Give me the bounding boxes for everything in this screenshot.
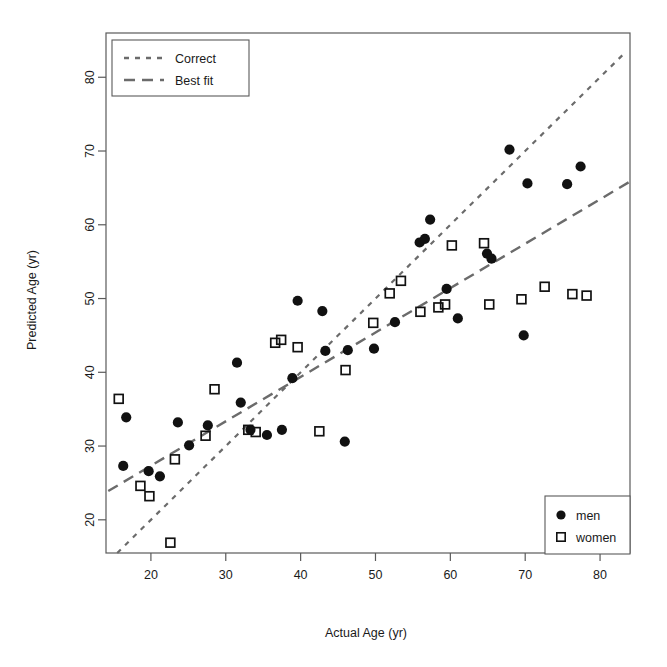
point-men bbox=[262, 430, 272, 440]
point-women bbox=[517, 295, 526, 304]
y-tick-label-50: 50 bbox=[83, 292, 97, 306]
point-men bbox=[317, 306, 327, 316]
y-tick-label-80: 80 bbox=[83, 70, 97, 84]
series-legend: menwomen bbox=[545, 496, 630, 554]
point-women bbox=[369, 318, 378, 327]
point-men bbox=[369, 344, 379, 354]
x-tick-label-70: 70 bbox=[518, 568, 532, 582]
point-men bbox=[144, 466, 154, 476]
line-legend: CorrectBest fit bbox=[112, 40, 249, 96]
series-legend-box bbox=[545, 496, 630, 554]
series-legend-marker-men bbox=[556, 510, 565, 519]
chart-canvas: 2030405060708020304050607080 CorrectBest… bbox=[0, 0, 667, 667]
point-men bbox=[236, 397, 246, 407]
point-men bbox=[562, 179, 572, 189]
point-women bbox=[277, 335, 286, 344]
point-women bbox=[540, 282, 549, 291]
point-women bbox=[145, 492, 154, 501]
x-tick-label-30: 30 bbox=[219, 568, 233, 582]
data-points bbox=[114, 144, 591, 547]
point-women bbox=[341, 366, 350, 375]
series-legend-label-women: women bbox=[575, 531, 616, 545]
x-tick-label-60: 60 bbox=[443, 568, 457, 582]
point-women bbox=[568, 290, 577, 299]
x-tick-label-20: 20 bbox=[144, 568, 158, 582]
reference-lines bbox=[108, 51, 629, 553]
y-axis-title: Predicted Age (yr) bbox=[25, 250, 39, 350]
point-men bbox=[343, 345, 353, 355]
y-tick-label-70: 70 bbox=[83, 144, 97, 158]
point-men bbox=[504, 144, 514, 154]
point-men bbox=[486, 254, 496, 264]
point-women bbox=[385, 289, 394, 298]
point-men bbox=[519, 330, 529, 340]
plot-frame bbox=[106, 33, 630, 553]
y-tick-label-20: 20 bbox=[83, 513, 97, 527]
x-tick-label-40: 40 bbox=[294, 568, 308, 582]
point-men bbox=[420, 234, 430, 244]
point-women bbox=[210, 385, 219, 394]
point-women bbox=[166, 538, 175, 547]
point-men bbox=[390, 317, 400, 327]
series-women bbox=[114, 239, 591, 547]
line-legend-label-best-fit: Best fit bbox=[175, 74, 214, 88]
y-tick-label-40: 40 bbox=[83, 365, 97, 379]
y-tick-label-60: 60 bbox=[83, 218, 97, 232]
point-men bbox=[453, 313, 463, 323]
y-tick-label-30: 30 bbox=[83, 439, 97, 453]
point-men bbox=[173, 417, 183, 427]
point-men bbox=[442, 284, 452, 294]
point-women bbox=[480, 239, 489, 248]
x-tick-label-50: 50 bbox=[369, 568, 383, 582]
point-men bbox=[320, 346, 330, 356]
point-women bbox=[271, 338, 280, 347]
point-women bbox=[582, 291, 591, 300]
point-men bbox=[121, 412, 131, 422]
point-women bbox=[315, 427, 324, 436]
reference-line-correct bbox=[117, 51, 626, 553]
point-men bbox=[232, 358, 242, 368]
point-women bbox=[416, 307, 425, 316]
series-legend-label-men: men bbox=[576, 509, 600, 523]
point-women bbox=[136, 481, 145, 490]
point-women bbox=[170, 455, 179, 464]
point-men bbox=[293, 296, 303, 306]
point-men bbox=[340, 437, 350, 447]
point-women bbox=[447, 241, 456, 250]
point-men bbox=[287, 373, 297, 383]
x-tick-label-80: 80 bbox=[593, 568, 607, 582]
point-men bbox=[118, 461, 128, 471]
point-men bbox=[203, 420, 213, 430]
point-women bbox=[114, 394, 123, 403]
point-men bbox=[155, 471, 165, 481]
point-men bbox=[184, 440, 194, 450]
point-women bbox=[293, 343, 302, 352]
line-legend-label-correct: Correct bbox=[175, 52, 217, 66]
axis-tick-labels: 2030405060708020304050607080 bbox=[83, 70, 607, 582]
point-men bbox=[575, 161, 585, 171]
point-men bbox=[277, 425, 287, 435]
point-women bbox=[397, 276, 406, 285]
series-men bbox=[118, 144, 586, 481]
point-men bbox=[425, 215, 435, 225]
point-men bbox=[522, 178, 532, 188]
plot-border bbox=[106, 33, 630, 553]
scatter-plot-figure: 2030405060708020304050607080 CorrectBest… bbox=[0, 0, 667, 667]
x-axis-title: Actual Age (yr) bbox=[325, 626, 407, 640]
axis-ticks bbox=[98, 77, 600, 561]
point-women bbox=[485, 300, 494, 309]
